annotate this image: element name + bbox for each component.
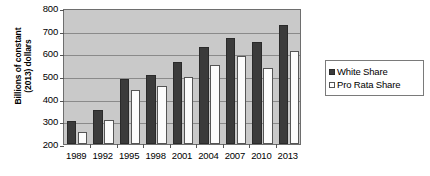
bar-group: [90, 10, 116, 144]
bar-group: [117, 10, 143, 144]
x-axis-tick-label: 2004: [195, 150, 221, 161]
y-axis-tick-label: 500: [30, 72, 58, 82]
bar-group: [170, 10, 196, 144]
bar-white-share-1992: [93, 110, 103, 144]
bar-white-share-2013: [279, 25, 289, 144]
bar-pro-rata-share-2010: [263, 68, 273, 144]
chart-legend: White SharePro Rata Share: [325, 60, 424, 96]
x-axis-tick-label: 2007: [222, 150, 248, 161]
x-axis-tick-label: 1998: [142, 150, 168, 161]
y-axis-tick: [60, 10, 64, 11]
x-axis-tick-label: 1995: [116, 150, 142, 161]
bar-white-share-2007: [226, 38, 236, 144]
x-axis-tick-labels: 198919921995199820012004200720102013: [63, 150, 301, 164]
x-axis-tick: [170, 144, 171, 148]
y-axis-tick: [60, 123, 64, 124]
bar-white-share-2010: [252, 42, 262, 144]
y-axis-tick-labels: 200300400500600700800: [30, 9, 58, 145]
x-axis-tick: [117, 144, 118, 148]
bar-white-share-2001: [173, 62, 183, 144]
plot-area: [63, 9, 301, 145]
bar-group: [143, 10, 169, 144]
bar-pro-rata-share-2013: [290, 51, 300, 144]
legend-item-white-share[interactable]: White Share: [329, 65, 419, 78]
y-axis-tick-label: 300: [30, 117, 58, 127]
x-axis-tick: [249, 144, 250, 148]
bar-pro-rata-share-2001: [184, 77, 194, 144]
legend-swatch-icon: [329, 69, 335, 75]
x-axis-tick-label: 2001: [169, 150, 195, 161]
bar-group: [64, 10, 90, 144]
bar-white-share-2004: [199, 47, 209, 144]
legend-item-pro-rata-share[interactable]: Pro Rata Share: [329, 78, 419, 91]
y-axis-tick-label: 800: [30, 4, 58, 14]
y-axis-tick: [60, 33, 64, 34]
bar-pro-rata-share-1998: [157, 86, 167, 144]
x-axis-tick: [276, 144, 277, 148]
bar-group: [223, 10, 249, 144]
x-axis-tick-label: 2010: [248, 150, 274, 161]
bars-layer: [64, 10, 300, 144]
x-axis-tick-label: 1992: [89, 150, 115, 161]
bar-group: [249, 10, 275, 144]
y-axis-tick: [60, 55, 64, 56]
y-axis-tick-label: 700: [30, 27, 58, 37]
bar-pro-rata-share-2007: [237, 56, 247, 144]
y-axis-tick: [60, 101, 64, 102]
x-axis-tick-label: 1989: [63, 150, 89, 161]
legend-label: White Share: [337, 65, 388, 78]
y-axis-tick: [60, 146, 64, 147]
y-axis-tick-label: 200: [30, 140, 58, 150]
x-axis-tick: [90, 144, 91, 148]
x-axis-tick-label: 2013: [275, 150, 301, 161]
y-axis-tick-label: 600: [30, 49, 58, 59]
x-axis-tick: [223, 144, 224, 148]
y-axis-tick-label: 400: [30, 95, 58, 105]
bar-pro-rata-share-1995: [131, 90, 141, 144]
bar-pro-rata-share-2004: [210, 65, 220, 144]
bar-group: [196, 10, 222, 144]
bar-pro-rata-share-1992: [104, 120, 114, 144]
x-axis-tick: [143, 144, 144, 148]
legend-swatch-icon: [329, 82, 335, 88]
bar-white-share-1998: [146, 75, 156, 144]
bar-chart-figure: Billions of constant (2013) dollars 2003…: [0, 0, 430, 176]
y-axis-tick: [60, 78, 64, 79]
bar-group: [276, 10, 302, 144]
bar-white-share-1989: [67, 121, 77, 144]
bar-pro-rata-share-1989: [78, 132, 88, 144]
legend-label: Pro Rata Share: [337, 78, 400, 91]
x-axis-tick: [196, 144, 197, 148]
bar-white-share-1995: [120, 79, 130, 144]
y-axis-title-line-1: Billions of constant: [13, 28, 24, 105]
